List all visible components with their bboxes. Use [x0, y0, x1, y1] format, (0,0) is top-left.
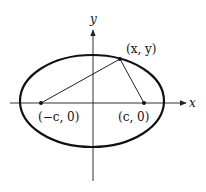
- right-focus-point: [142, 101, 146, 105]
- left-focus-point: [39, 101, 43, 105]
- y-axis-label: y: [89, 12, 97, 26]
- x-axis-label: x: [189, 96, 196, 110]
- left-focus-label: (−c, 0): [38, 110, 79, 124]
- ellipse-point: [118, 57, 122, 61]
- right-focus-label: (c, 0): [118, 110, 149, 124]
- point-label: (x, y): [126, 42, 157, 56]
- focal-line-right: [120, 59, 144, 103]
- focal-line-left: [41, 59, 120, 103]
- ellipse-diagram: y x (x, y) (−c, 0) (c, 0): [0, 0, 206, 192]
